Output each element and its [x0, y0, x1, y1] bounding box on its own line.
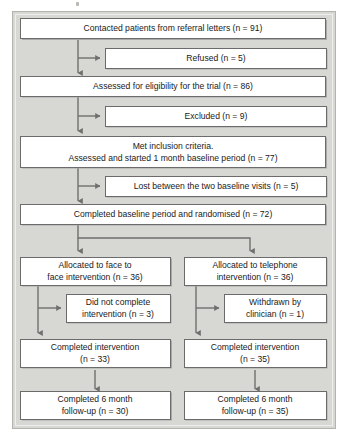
completed-baseline-randomised-label: Completed baseline period and randomised… — [74, 209, 273, 219]
withdrawn-line-2: clinician (n = 1) — [246, 309, 304, 319]
excluded-label: Excluded (n = 9) — [185, 111, 248, 121]
followup-left-line-2: follow-up (n = 30) — [62, 406, 129, 416]
completed-intervention-left-box: Completed intervention (n = 33) — [21, 340, 173, 369]
lost-between-baseline-visits-box: Lost between the two baseline visits (n … — [106, 177, 328, 198]
completed-6-month-followup-right-box: Completed 6 month follow-up (n = 35) — [185, 392, 328, 421]
completed-intervention-right-box: Completed intervention (n = 35) — [185, 340, 328, 369]
met-inclusion-criteria-box: Met inclusion criteria. Assessed and sta… — [21, 137, 328, 169]
followup-left-line-1: Completed 6 month — [58, 394, 133, 404]
completed-intervention-right-line-2: (n = 35) — [240, 354, 270, 364]
completed-intervention-right-line-1: Completed intervention — [211, 342, 300, 352]
contacted-patients-label: Contacted patients from referral letters… — [84, 23, 263, 33]
assessed-eligibility-box: Assessed for eligibility for the trial (… — [21, 77, 328, 98]
did-not-complete-line-1: Did not complete — [86, 297, 151, 307]
did-not-complete-intervention-box: Did not complete intervention (n = 3) — [67, 295, 172, 324]
completed-intervention-left-line-2: (n = 33) — [80, 354, 110, 364]
allocated-telephone-line-2: intervention (n = 36) — [217, 272, 294, 282]
contacted-patients-box: Contacted patients from referral letters… — [21, 19, 328, 41]
met-inclusion-line-1: Met inclusion criteria. — [133, 141, 214, 151]
excluded-box: Excluded (n = 9) — [106, 107, 328, 128]
allocated-face-to-face-box: Allocated to face to face intervention (… — [21, 258, 173, 287]
did-not-complete-line-2: intervention (n = 3) — [82, 309, 154, 319]
allocated-telephone-box: Allocated to telephone intervention (n =… — [185, 258, 328, 287]
flowchart-canvas: Contacted patients from referral letters… — [0, 0, 345, 440]
completed-baseline-randomised-box: Completed baseline period and randomised… — [21, 205, 328, 226]
withdrawn-line-1: Withdrawn by — [249, 297, 302, 307]
lost-between-baseline-label: Lost between the two baseline visits (n … — [134, 181, 299, 191]
scan-artifact-speck — [76, 2, 79, 6]
followup-right-line-2: follow-up (n = 35) — [222, 406, 289, 416]
refused-box: Refused (n = 5) — [106, 49, 328, 70]
refused-label: Refused (n = 5) — [186, 53, 246, 63]
met-inclusion-line-2: Assessed and started 1 month baseline pe… — [68, 153, 277, 163]
allocated-face-line-2: face intervention (n = 36) — [47, 272, 142, 282]
completed-intervention-left-line-1: Completed intervention — [51, 342, 140, 352]
completed-6-month-followup-left-box: Completed 6 month follow-up (n = 30) — [21, 392, 173, 421]
withdrawn-by-clinician-box: Withdrawn by clinician (n = 1) — [225, 295, 328, 324]
followup-right-line-1: Completed 6 month — [218, 394, 293, 404]
assessed-eligibility-label: Assessed for eligibility for the trial (… — [93, 81, 253, 91]
trial-flow-diagram: Contacted patients from referral letters… — [0, 0, 345, 440]
allocated-face-line-1: Allocated to face to — [58, 260, 131, 270]
allocated-telephone-line-1: Allocated to telephone — [212, 260, 297, 270]
